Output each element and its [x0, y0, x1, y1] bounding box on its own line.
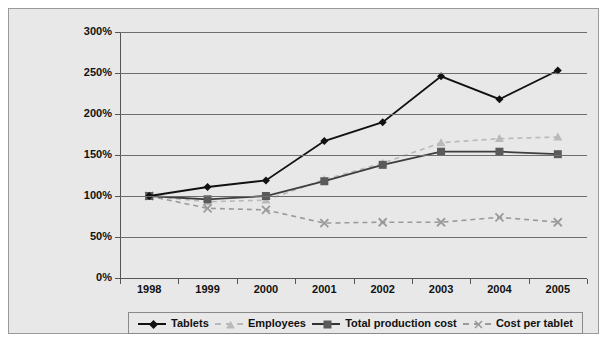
- series-tablets: [145, 67, 562, 200]
- legend-item-total-production-cost[interactable]: Total production cost: [312, 317, 457, 329]
- legend-item-employees[interactable]: Employees: [215, 317, 306, 329]
- x-tick-mark: [587, 279, 588, 284]
- gridline: [120, 278, 587, 279]
- x-tick-label: 2001: [301, 283, 347, 295]
- data-point: [495, 213, 503, 221]
- y-tick-label: 150%: [66, 148, 112, 160]
- data-point: [204, 183, 212, 191]
- x-tick-mark: [120, 279, 121, 284]
- chart-legend: Tablets Employees Total pr: [128, 312, 583, 334]
- legend-label: Total production cost: [345, 317, 457, 329]
- x-tick-mark: [178, 279, 179, 284]
- gridline: [120, 114, 587, 115]
- x-tick-label: 1998: [126, 283, 172, 295]
- series-employees: [145, 132, 563, 205]
- x-tick-mark: [529, 279, 530, 284]
- x-tick-label: 2002: [360, 283, 406, 295]
- y-tick-label: 250%: [66, 66, 112, 78]
- employees-marker-icon: [215, 318, 243, 329]
- x-tick-mark: [354, 279, 355, 284]
- x-tick-label: 1999: [185, 283, 231, 295]
- series-total-production-cost: [145, 148, 562, 204]
- chart-frame: Values indexed to 1998 0%50%100%150%200%…: [8, 8, 599, 334]
- data-point: [379, 161, 387, 169]
- x-tick-mark: [470, 279, 471, 284]
- chart-page: Values indexed to 1998 0%50%100%150%200%…: [0, 0, 607, 342]
- gridline: [120, 73, 587, 74]
- y-tick-label: 0%: [66, 271, 112, 283]
- legend-label: Tablets: [171, 317, 209, 329]
- tablets-marker-icon: [138, 318, 166, 329]
- gridline: [120, 32, 587, 33]
- production-cost-marker-icon: [312, 318, 340, 329]
- gridline: [120, 196, 587, 197]
- gridline: [120, 237, 587, 238]
- legend-item-cost-per-tablet[interactable]: Cost per tablet: [463, 317, 573, 329]
- cost-per-tablet-marker-icon: [463, 318, 491, 329]
- data-point: [495, 95, 503, 103]
- data-point: [379, 218, 387, 226]
- y-tick-label: 100%: [66, 189, 112, 201]
- y-tick-label: 50%: [66, 230, 112, 242]
- y-tick-label: 200%: [66, 107, 112, 119]
- plot-area: [120, 32, 587, 278]
- x-tick-label: 2003: [418, 283, 464, 295]
- legend-label: Employees: [248, 317, 306, 329]
- x-tick-mark: [412, 279, 413, 284]
- legend-label: Cost per tablet: [496, 317, 573, 329]
- x-tick-label: 2000: [243, 283, 289, 295]
- data-point: [320, 177, 328, 185]
- x-tick-label: 2004: [476, 283, 522, 295]
- x-tick-label: 2005: [535, 283, 581, 295]
- y-tick-label: 300%: [66, 25, 112, 37]
- data-point: [437, 138, 446, 146]
- x-tick-mark: [237, 279, 238, 284]
- x-tick-mark: [295, 279, 296, 284]
- legend-item-tablets[interactable]: Tablets: [138, 317, 209, 329]
- gridline: [120, 155, 587, 156]
